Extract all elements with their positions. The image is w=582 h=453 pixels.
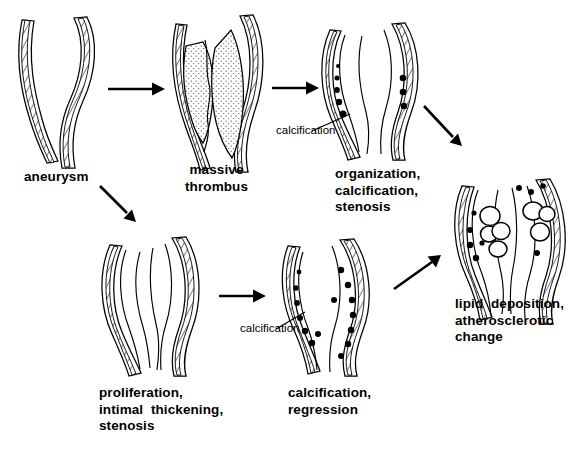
vessel-aneurysm — [19, 17, 95, 168]
vessel-calcification-regression — [276, 239, 369, 376]
node-label-organization-calcification-stenosis: organization,calcification,stenosis — [335, 166, 420, 216]
node-label-aneurysm: aneurysm — [24, 169, 89, 186]
annotation-calcification-bottom: calcification — [240, 322, 299, 335]
vessel-organization-calcification-stenosis — [312, 23, 418, 160]
node-label-massive-thrombus: massivethrombus — [185, 162, 248, 195]
edge-calcification-to-lipid — [394, 255, 441, 289]
vessel-massive-thrombus — [173, 15, 263, 172]
diagram-canvas: aneurysm massivethrombus organization,ca… — [0, 0, 582, 453]
edge-aneurysm-to-proliferation — [100, 186, 136, 222]
node-label-calcification-regression: calcification,regression — [288, 385, 371, 418]
edge-organization-to-lipid — [424, 106, 462, 146]
edge-proliferation-to-calcification — [219, 290, 266, 303]
node-label-proliferation-intimal-thickening-stenosis: proliferation,intimal thickening,stenosi… — [99, 385, 223, 435]
node-label-lipid-deposition-atherosclerotic-change: lipid deposition,atheroscleroticchange — [455, 296, 564, 346]
edge-aneurysm-to-thrombus — [108, 83, 165, 96]
edge-thrombus-to-organization — [272, 82, 319, 95]
annotation-calcification-top: calcification — [276, 124, 335, 137]
vessel-proliferation-intimal-thickening-stenosis — [102, 237, 199, 376]
